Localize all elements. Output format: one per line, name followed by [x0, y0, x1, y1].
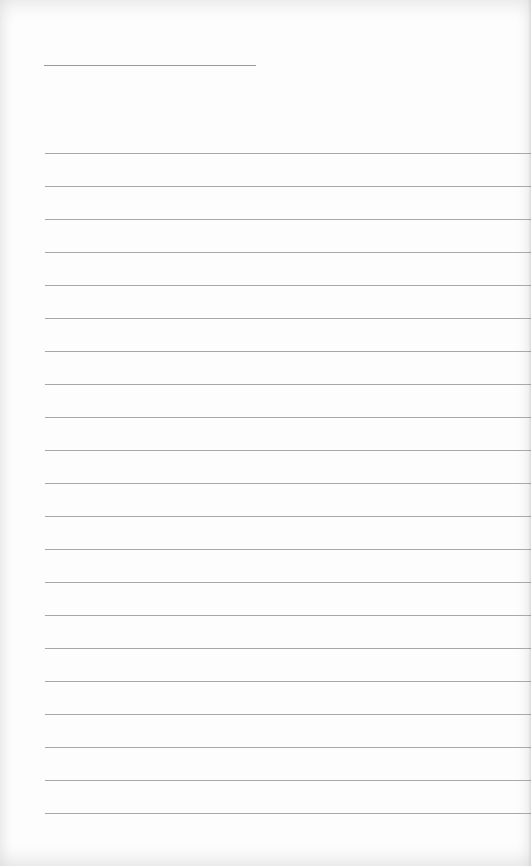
ruled-line [45, 219, 531, 220]
ruled-line [45, 450, 531, 451]
ruled-line [45, 582, 531, 583]
ruled-line [45, 681, 531, 682]
ruled-line [45, 813, 531, 814]
ruled-line [45, 747, 531, 748]
lined-paper [0, 0, 531, 866]
ruled-line [45, 780, 531, 781]
ruled-line [45, 483, 531, 484]
ruled-line [45, 318, 531, 319]
ruled-line [45, 549, 531, 550]
ruled-line [45, 417, 531, 418]
ruled-line [45, 351, 531, 352]
ruled-line [45, 252, 531, 253]
ruled-line [45, 615, 531, 616]
ruled-line [45, 186, 531, 187]
ruled-line [45, 714, 531, 715]
ruled-line [45, 285, 531, 286]
ruled-line [45, 153, 531, 154]
ruled-line [45, 384, 531, 385]
ruled-line [45, 648, 531, 649]
ruled-line [45, 516, 531, 517]
title-line [44, 65, 256, 66]
